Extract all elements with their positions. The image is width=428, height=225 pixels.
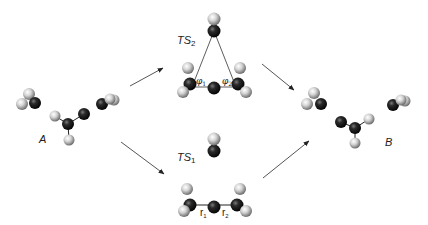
hydrogen-atom <box>364 114 375 125</box>
hydrogen-atom <box>181 183 193 195</box>
label-phi1: φ1 <box>196 77 206 87</box>
label-TS2: TS2 <box>177 35 196 48</box>
hydrogen-atom <box>234 183 246 195</box>
hydrogen-atom <box>182 62 194 74</box>
bonds <box>55 114 369 205</box>
label-phi2: φ2 <box>222 77 232 87</box>
hydrogen-atom <box>350 138 361 149</box>
hydrogen-atom <box>308 87 320 99</box>
carbon-atom <box>208 201 221 214</box>
arrow-TS1-to-B <box>263 141 309 178</box>
hydrogen-atom <box>50 111 61 122</box>
reaction-diagram: A B TS2 TS1 φ1 φ2 r1 r2 <box>0 0 428 225</box>
label-A: A <box>39 134 46 145</box>
hydrogen-atom <box>177 86 189 98</box>
carbon-atom <box>78 108 90 120</box>
hydrogen-atom <box>208 133 221 146</box>
label-r2: r2 <box>222 208 229 219</box>
atoms <box>16 13 411 218</box>
carbon-atom <box>208 25 221 38</box>
hydrogen-atom <box>16 98 28 110</box>
hydrogen-atom <box>234 62 246 74</box>
hydrogen-atom <box>105 94 116 105</box>
hydrogen-atom <box>208 13 221 26</box>
carbon-atom <box>349 122 361 134</box>
arrow-A-to-TS1 <box>121 142 164 174</box>
molecule-canvas <box>0 0 428 225</box>
carbon-atom <box>208 82 221 95</box>
carbon-atom <box>315 98 327 110</box>
hydrogen-atom <box>240 86 252 98</box>
hydrogen-atom <box>396 95 407 106</box>
label-TS1: TS1 <box>177 152 196 165</box>
label-r1: r1 <box>200 208 207 219</box>
hydrogen-atom <box>178 205 190 217</box>
label-B: B <box>385 137 392 148</box>
hydrogen-atom <box>240 205 252 217</box>
hydrogen-atom <box>64 135 75 146</box>
arrow-A-to-TS2 <box>130 68 163 86</box>
reaction-arrows <box>121 64 309 178</box>
arrow-TS2-to-B <box>262 64 294 90</box>
hydrogen-atom <box>301 98 313 110</box>
carbon-atom <box>208 145 221 158</box>
carbon-atom <box>62 118 74 130</box>
carbon-atom <box>29 97 41 109</box>
carbon-atom <box>335 116 347 128</box>
